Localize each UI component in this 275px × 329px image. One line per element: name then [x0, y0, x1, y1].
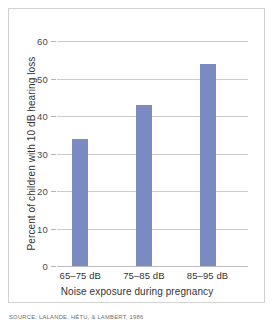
y-tick-mark-20 [51, 191, 56, 192]
gridline-50 [57, 79, 248, 80]
bar [136, 105, 152, 266]
y-tick-mark-10 [51, 229, 56, 230]
y-tick-label-10: 10 [37, 223, 48, 234]
bar [72, 139, 88, 267]
source-credit: SOURCE: LALANDE, HÉTU, & LAMBERT, 1986 [9, 314, 143, 320]
y-tick-label-40: 40 [37, 111, 48, 122]
x-tick-label: 65–75 dB [59, 270, 100, 281]
y-tick-label-30: 30 [37, 148, 48, 159]
x-axis-tick-labels: 65–75 dB75–85 dB85–95 dB [57, 270, 248, 284]
y-tick-label-20: 20 [37, 186, 48, 197]
chart-figure: Percent of children with 10 dB hearing l… [0, 0, 275, 329]
y-tick-label-60: 60 [37, 36, 48, 47]
gridline-40 [57, 116, 248, 117]
y-tick-mark-40 [51, 116, 56, 117]
x-axis-title: Noise exposure during pregnancy [18, 286, 256, 297]
y-axis-title-text: Percent of children with 10 dB hearing l… [27, 57, 38, 251]
bar [200, 64, 216, 267]
y-tick-mark-30 [51, 154, 56, 155]
gridline-0 [57, 266, 248, 267]
gridline-60 [57, 41, 248, 42]
y-tick-label-50: 50 [37, 73, 48, 84]
x-tick-label: 85–95 dB [187, 270, 228, 281]
y-tick-label-0: 0 [43, 261, 48, 272]
y-tick-mark-60 [51, 41, 56, 42]
y-tick-mark-0 [51, 266, 56, 267]
x-tick-label: 75–85 dB [123, 270, 164, 281]
y-tick-mark-50 [51, 79, 56, 80]
plot-area: 0102030405060 [57, 41, 248, 266]
